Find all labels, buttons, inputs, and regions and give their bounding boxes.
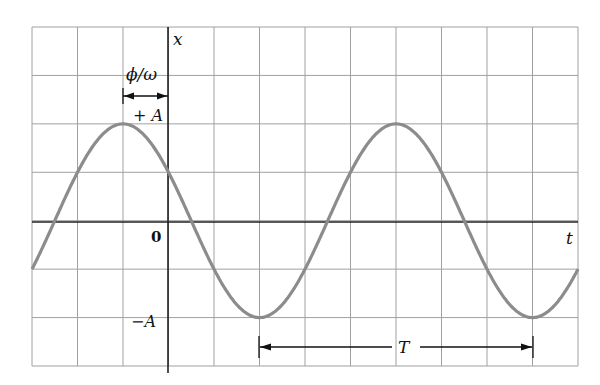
origin-label: 0 xyxy=(151,228,161,246)
phase-offset-arrow xyxy=(123,88,168,104)
plus-amplitude-label: + A xyxy=(133,106,163,125)
grid xyxy=(32,27,578,366)
period-label: T xyxy=(398,337,411,357)
x-axis-label: t xyxy=(566,228,573,248)
phase-offset-label: ϕ/ω xyxy=(126,64,157,84)
minus-amplitude-label: −A xyxy=(131,312,156,331)
y-axis-label: x xyxy=(173,29,183,49)
shm-diagram: x t 0 + A −A ϕ/ω T xyxy=(0,0,600,385)
